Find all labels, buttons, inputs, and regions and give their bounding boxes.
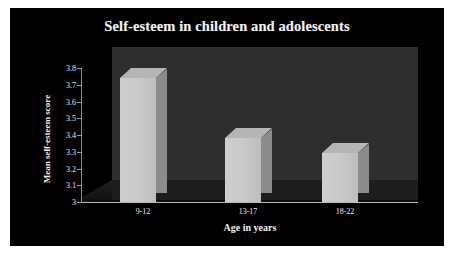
bar-front-face[interactable] [120, 78, 156, 202]
y-axis-tick-label-wrap: 3.5 [54, 118, 76, 119]
y-axis-tick [77, 202, 82, 203]
y-axis-tick-label: 3.4 [66, 131, 76, 140]
y-axis-tick-label-wrap: 3.3 [54, 152, 76, 153]
x-axis-tick-label: 13-17 [213, 207, 283, 216]
y-axis-tick [77, 169, 82, 170]
y-axis-tick [77, 152, 82, 153]
y-axis-tick-label: 3.8 [66, 64, 76, 73]
y-axis-tick-label: 3.7 [66, 80, 76, 89]
y-axis-tick-label-wrap: 3.2 [54, 169, 76, 170]
bar-side-face [156, 69, 167, 193]
y-axis-tick-label-wrap: 3.8 [54, 68, 76, 69]
y-axis-tick-label-wrap: 3.6 [54, 102, 76, 103]
y-axis-tick [77, 118, 82, 119]
y-axis-tick [77, 102, 82, 103]
bar-group[interactable] [322, 137, 369, 202]
y-axis-tick-label-wrap: 3.7 [54, 85, 76, 86]
y-axis-tick-label-wrap: 3 [54, 202, 76, 203]
x-axis-line [81, 202, 418, 203]
bar-group[interactable] [120, 62, 167, 202]
bar-group[interactable] [225, 122, 272, 202]
x-axis-title: Age in years [82, 222, 418, 233]
bar-front-face[interactable] [225, 138, 261, 202]
y-axis-tick [77, 135, 82, 136]
y-axis-tick [77, 85, 82, 86]
x-axis-tick-label: 18-22 [310, 207, 380, 216]
y-axis-tick-label: 3 [72, 198, 76, 207]
chart-screenshot: Self-esteem in children and adolescents … [0, 0, 454, 264]
y-axis-tick-label: 3.6 [66, 97, 76, 106]
y-axis-tick-label-wrap: 3.1 [54, 185, 76, 186]
y-axis-tick-label: 3.3 [66, 147, 76, 156]
bar-front-face[interactable] [322, 153, 358, 202]
y-axis-tick-label: 3.1 [66, 181, 76, 190]
y-axis-title: Mean self-esteem score [42, 69, 52, 209]
y-axis-tick-label-wrap: 3.4 [54, 135, 76, 136]
y-axis-tick [77, 185, 82, 186]
chart-canvas: Self-esteem in children and adolescents … [10, 8, 444, 246]
y-axis-tick-label: 3.2 [66, 164, 76, 173]
y-axis-tick [77, 68, 82, 69]
chart-title: Self-esteem in children and adolescents [10, 18, 444, 35]
y-axis-tick-label: 3.5 [66, 114, 76, 123]
x-axis-tick-label: 9-12 [108, 207, 178, 216]
bar-side-face [261, 129, 272, 193]
